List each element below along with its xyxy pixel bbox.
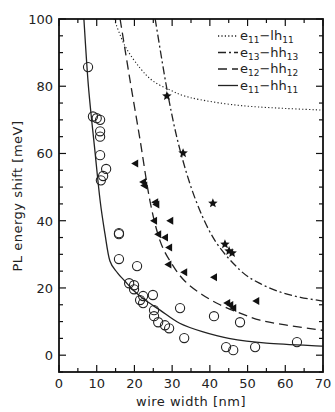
y-tick-label: 100 xyxy=(28,12,53,27)
data-point-filled-triangle xyxy=(210,273,217,281)
legend-label: e11−lh11 xyxy=(240,28,294,45)
data-point-filled-star xyxy=(220,239,230,248)
x-tick-label: 30 xyxy=(164,376,181,391)
data-point-open-circle xyxy=(114,254,123,263)
legend-item-e11-lh11: e11−lh11 xyxy=(218,28,294,45)
x-tick-label: 60 xyxy=(277,376,294,391)
data-point-open-circle xyxy=(96,151,105,160)
legend: e11−lh11e13−hh13e12−hh12e11−hh11 xyxy=(218,28,298,95)
data-point-open-circle xyxy=(209,312,218,321)
data-point-filled-star xyxy=(208,198,218,207)
x-tick-label: 10 xyxy=(88,376,105,391)
y-axis-label: PL energy shift [meV] xyxy=(10,120,25,271)
x-tick-label: 40 xyxy=(202,376,219,391)
data-point-open-circle xyxy=(96,127,105,136)
x-tick-label: 0 xyxy=(55,376,63,391)
data-point-filled-triangle xyxy=(164,260,171,268)
data-point-filled-star xyxy=(162,91,172,100)
data-point-open-circle xyxy=(175,304,184,313)
data-point-open-circle xyxy=(180,333,189,342)
data-point-open-circle xyxy=(148,290,157,299)
data-point-open-circle xyxy=(129,285,138,294)
x-tick-label: 70 xyxy=(315,376,332,391)
data-point-filled-triangle xyxy=(161,234,168,242)
y-tick-label: 0 xyxy=(45,348,53,363)
data-point-open-circle xyxy=(251,343,260,352)
data-point-open-circle xyxy=(96,115,105,124)
legend-label: e11−hh11 xyxy=(240,78,298,95)
data-points xyxy=(83,62,301,354)
x-axis-label: wire width [nm] xyxy=(136,394,246,409)
y-tick-label: 60 xyxy=(36,146,53,161)
data-point-filled-triangle xyxy=(131,160,138,168)
chart: 010203040506070020406080100 e11−lh11e13−… xyxy=(0,0,335,412)
y-tick-label: 20 xyxy=(36,281,53,296)
legend-label: e13−hh13 xyxy=(240,45,298,62)
legend-item-e11-hh11: e11−hh11 xyxy=(218,78,298,95)
legend-item-e12-hh12: e12−hh12 xyxy=(218,61,298,78)
x-tick-label: 50 xyxy=(239,376,256,391)
data-point-open-circle xyxy=(96,132,105,141)
data-point-open-circle xyxy=(132,262,141,271)
legend-item-e13-hh13: e13−hh13 xyxy=(218,45,298,62)
data-point-open-circle xyxy=(235,318,244,327)
data-point-filled-triangle xyxy=(252,297,259,305)
data-point-open-circle xyxy=(83,62,92,71)
x-tick-label: 20 xyxy=(126,376,143,391)
data-point-filled-triangle xyxy=(180,268,187,276)
legend-label: e12−hh12 xyxy=(240,61,298,78)
y-tick-label: 80 xyxy=(36,79,53,94)
curve-e11-lh11 xyxy=(114,19,323,110)
data-point-filled-triangle xyxy=(166,217,173,225)
data-point-filled-triangle xyxy=(165,244,172,252)
curve-e12-hh12 xyxy=(120,19,323,330)
y-tick-label: 40 xyxy=(36,214,53,229)
